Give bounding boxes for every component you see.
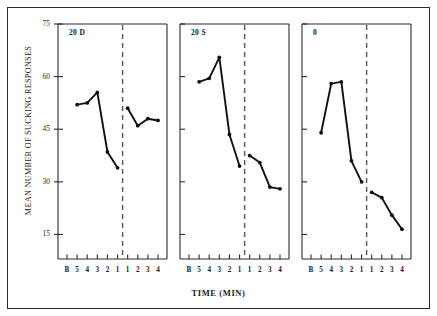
panel-title-1: 20 S (191, 28, 206, 37)
panel-1-point-4 (238, 164, 242, 168)
panel-1-x-axis-tick-label-7: 2 (255, 266, 265, 274)
panel-2-point-4 (360, 180, 364, 184)
panel-2-x-axis-tick-label-3: 3 (336, 266, 346, 274)
panel-2-point-0 (319, 131, 323, 135)
panel-2-x-axis-tick-label-8: 3 (387, 266, 397, 274)
panel-0-point-6 (136, 124, 140, 128)
panel-1-point-3 (228, 133, 232, 137)
panel-0-x-axis-tick-label-4: 2 (102, 266, 112, 274)
panel-0-x-axis-tick-label-1: 5 (72, 266, 82, 274)
panel-0-point-7 (146, 117, 150, 121)
panel-2-point-6 (380, 196, 384, 200)
y-axis-tick-label-60: 60 (28, 72, 50, 81)
panel-0-x-axis-tick-label-6: 1 (123, 266, 133, 274)
panel-1-point-5 (248, 154, 252, 158)
y-axis-tick-label-75: 75 (28, 19, 50, 28)
panel-2-point-7 (390, 213, 394, 217)
panel-1-x-axis-tick-label-2: 4 (204, 266, 214, 274)
y-axis-tick-label-45: 45 (28, 124, 50, 133)
panel-2-point-1 (329, 82, 333, 86)
panel-2-point-3 (350, 159, 354, 163)
panel-2-x-axis-tick-label-0: B (306, 266, 316, 274)
panel-1-point-1 (207, 76, 211, 80)
panel-1-x-axis-tick-label-6: 1 (245, 266, 255, 274)
panel-1-x-axis-tick-label-1: 5 (194, 266, 204, 274)
panel-1-pre-line (199, 57, 239, 166)
panel-1-post-line (250, 156, 280, 189)
panel-1-point-0 (197, 80, 201, 84)
panel-2-point-8 (400, 227, 404, 231)
panel-1-point-8 (278, 187, 282, 191)
panel-0-point-4 (116, 166, 120, 170)
panel-2-post-line (372, 192, 402, 229)
panel-1-point-2 (217, 55, 221, 59)
panel-0-x-axis-tick-label-7: 2 (133, 266, 143, 274)
panel-0-x-axis-tick-label-8: 3 (143, 266, 153, 274)
panel-0-point-5 (126, 106, 130, 110)
panel-2-x-axis-tick-label-4: 2 (346, 266, 356, 274)
panel-0-x-axis-tick-label-2: 4 (82, 266, 92, 274)
panel-1-point-7 (268, 185, 272, 189)
panel-0-point-0 (75, 103, 79, 107)
panel-2-x-axis-tick-label-1: 5 (316, 266, 326, 274)
panel-1-x-axis-tick-label-0: B (184, 266, 194, 274)
panel-2-x-axis-tick-label-6: 1 (367, 266, 377, 274)
figure-container: MEAN NUMBER OF SUCKING RESPONSES TIME (M… (0, 0, 437, 316)
panel-1-x-axis-tick-label-5: 1 (235, 266, 245, 274)
panel-0-point-3 (106, 150, 110, 154)
panel-title-2: 0 (313, 28, 317, 37)
panel-0-x-axis-tick-label-5: 1 (113, 266, 123, 274)
panel-2-x-axis-tick-label-9: 4 (397, 266, 407, 274)
panel-2-x-axis-tick-label-7: 2 (377, 266, 387, 274)
panel-0-point-2 (95, 91, 99, 95)
panel-0-x-axis-tick-label-0: B (62, 266, 72, 274)
panel-0-point-8 (156, 119, 160, 123)
y-axis-tick-label-30: 30 (28, 177, 50, 186)
panel-2-x-axis-tick-label-5: 1 (357, 266, 367, 274)
panel-0-post-line (128, 108, 158, 126)
panel-2-point-2 (339, 80, 343, 84)
panel-0-x-axis-tick-label-3: 3 (92, 266, 102, 274)
panel-1-x-axis-tick-label-4: 2 (224, 266, 234, 274)
x-axis-title: TIME (MIN) (0, 288, 437, 298)
panel-1-x-axis-tick-label-9: 4 (275, 266, 285, 274)
panel-1-point-6 (258, 161, 262, 165)
panel-1-x-axis-tick-label-3: 3 (214, 266, 224, 274)
panel-2-point-5 (370, 190, 374, 194)
y-axis-tick-label-15: 15 (28, 229, 50, 238)
panel-0-pre-line (77, 92, 117, 167)
panel-0-x-axis-tick-label-9: 4 (153, 266, 163, 274)
panel-2-x-axis-tick-label-2: 4 (326, 266, 336, 274)
panel-title-0: 20 D (69, 28, 85, 37)
panel-2-pre-line (321, 82, 361, 182)
panel-0-point-1 (85, 101, 89, 105)
panel-1-x-axis-tick-label-8: 3 (265, 266, 275, 274)
